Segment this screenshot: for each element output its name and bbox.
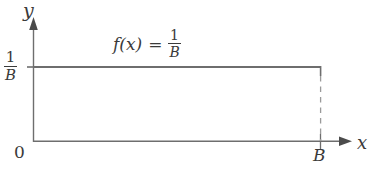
y-axis-tick-label-fraction: 1 B <box>4 50 17 84</box>
x-axis-tick-label-b: B <box>313 147 326 164</box>
equation-fraction: 1 B <box>168 28 180 60</box>
x-axis-arrowhead <box>339 137 352 146</box>
equation-function-label: f(x) <box>113 34 142 54</box>
uniform-distribution-figure: y x 0 B 1 B f(x) = 1 B <box>0 0 373 182</box>
fraction-denominator: B <box>4 68 17 83</box>
fraction-numerator: 1 <box>4 50 17 65</box>
origin-label: 0 <box>14 144 25 161</box>
equation-annotation: f(x) = 1 B <box>113 28 181 60</box>
equation-fraction-numerator: 1 <box>168 28 180 42</box>
axis-label-x: x <box>357 134 367 152</box>
axis-label-y: y <box>23 1 34 20</box>
equation-fraction-denominator: B <box>168 45 180 59</box>
equation-equals-sign: = <box>147 34 163 54</box>
